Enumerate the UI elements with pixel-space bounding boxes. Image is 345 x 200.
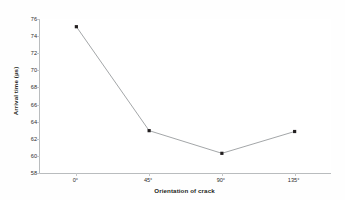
plot-area [39,19,331,174]
y-axis-tick-label: 60 [22,152,37,160]
data-point-marker [220,152,223,155]
y-axis-tick-label: 68 [22,83,37,91]
y-axis-tick-labels: 76747270686664626058 [22,19,37,173]
y-axis-tick-mark [37,173,40,174]
x-axis-tick-label: 45° [128,176,168,185]
y-axis-tick-label: 74 [22,32,37,40]
data-point-marker [148,129,151,132]
chart-figure: Arrival time (µs) 76747270686664626058 0… [0,0,345,200]
data-series-line [40,19,331,173]
x-axis-tick-label: 90° [201,176,241,185]
y-axis-tick-label: 72 [22,49,37,57]
y-axis-title: Arrival time (µs) [9,14,23,168]
y-axis-tick-label: 66 [22,101,37,109]
x-axis-title: Orientation of crack [39,185,330,197]
data-point-marker [293,130,296,133]
y-axis-tick-label: 64 [22,118,37,126]
data-point-marker [75,25,78,28]
y-axis-tick-label: 62 [22,135,37,143]
x-axis-tick-labels: 0°45°90°135° [39,176,330,185]
y-axis-tick-label: 58 [22,169,37,177]
y-axis-tick-label: 70 [22,66,37,74]
y-axis-tick-label: 76 [22,15,37,23]
x-axis-tick-label: 0° [55,176,95,185]
x-axis-tick-label: 135° [274,176,314,185]
series-line [76,27,294,154]
